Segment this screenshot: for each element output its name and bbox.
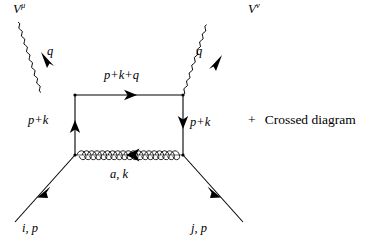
label-internal-top: p+k+q — [104, 69, 139, 82]
vertex-top-right — [181, 93, 184, 96]
quark-in-line — [15, 155, 75, 222]
vertex-bottom-right — [181, 153, 184, 156]
crossed-diagram-note: +Crossed diagram — [248, 112, 356, 128]
label-gluon: a, k — [110, 168, 128, 181]
label-boson-out: Vν — [248, 2, 260, 15]
photon-out-momentum-arrow — [209, 55, 222, 71]
vertex-top-left — [73, 93, 76, 96]
label-internal-right: p+k — [190, 116, 210, 129]
label-momentum-q-left: q — [47, 45, 53, 58]
fermion-left-line — [70, 95, 80, 155]
feynman-diagram: Vμ Vν q q p+k+q p+k p+k a, k i, p j, p +… — [0, 0, 384, 241]
label-boson-out-index: ν — [256, 0, 260, 10]
photon-out-line — [182, 23, 207, 97]
label-boson-in-index: μ — [21, 0, 25, 10]
plus-sign: + — [248, 112, 256, 127]
gluon-line — [75, 149, 183, 162]
label-momentum-q-right: q — [196, 45, 202, 58]
vertex-bottom-left — [73, 153, 76, 156]
fermion-right-line — [178, 95, 188, 155]
label-outgoing-quark: j, p — [191, 222, 207, 235]
label-internal-left: p+k — [28, 114, 48, 127]
label-boson-in-symbol: V — [13, 1, 21, 16]
quark-out-line — [183, 155, 243, 222]
fermion-top-line — [75, 90, 183, 100]
crossed-diagram-text: Crossed diagram — [265, 112, 356, 127]
label-boson-out-symbol: V — [248, 1, 256, 16]
label-boson-in: Vμ — [13, 2, 25, 15]
label-incoming-quark: i, p — [22, 222, 38, 235]
